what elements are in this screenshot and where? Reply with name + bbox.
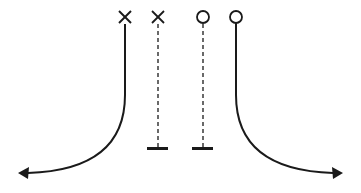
arrow-right-icon <box>332 167 343 179</box>
route-right-curve <box>230 11 343 179</box>
diagram-canvas <box>0 0 361 193</box>
x-marker-icon <box>152 11 164 23</box>
arrow-left-icon <box>18 167 29 179</box>
route-left-straight <box>147 11 168 149</box>
circle-marker-icon <box>197 11 209 23</box>
route-right-straight <box>192 11 213 149</box>
solid-curve-line <box>28 24 125 173</box>
circle-marker-icon <box>230 11 242 23</box>
solid-curve-line <box>236 23 333 173</box>
x-marker-icon <box>119 11 131 23</box>
route-left-curve <box>18 11 131 179</box>
route-diagram <box>0 0 361 193</box>
